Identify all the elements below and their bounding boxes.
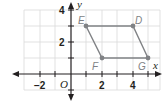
y-axis-down-arrow-icon (68, 94, 74, 101)
coordinate-plane: −2 2 4 4 2 O y x E D G F (0, 0, 164, 106)
x-tick-label-4: 4 (130, 80, 136, 91)
x-tick-label-2: 2 (99, 80, 105, 91)
point-label-g: G (138, 61, 146, 72)
x-tick-label-neg2: −2 (34, 80, 46, 91)
point-label-f: F (92, 61, 99, 72)
y-tick-label-4: 4 (59, 5, 65, 16)
point-label-e: E (78, 15, 85, 26)
point-label-d: D (135, 15, 142, 26)
y-axis-up-arrow-icon (68, 2, 74, 9)
x-axis-right-arrow-icon (155, 71, 162, 77)
y-tick-label-2: 2 (59, 37, 65, 48)
origin-label: O (60, 78, 68, 90)
point-g (146, 56, 151, 61)
tick-marks (40, 10, 148, 90)
x-axis-left-arrow-icon (12, 71, 19, 77)
point-f (100, 56, 105, 61)
x-axis-label: x (152, 59, 158, 71)
y-axis-label: y (76, 0, 82, 10)
